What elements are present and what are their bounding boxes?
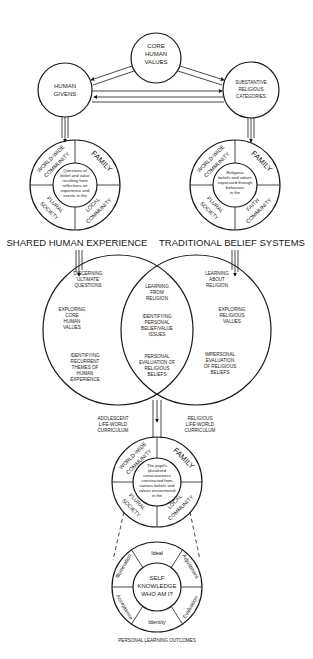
venn-text: HUMAN xyxy=(64,319,81,324)
segment-acceptance: Acceptance xyxy=(115,593,134,620)
venn-text: LEARNING xyxy=(205,271,229,276)
center-text: ... xyxy=(73,198,77,203)
venn-text: FROM xyxy=(150,290,164,295)
center-text: ... xyxy=(233,195,237,200)
venn-text: CORE xyxy=(65,313,78,318)
venn-text: EXPLORING xyxy=(59,307,86,312)
node-label: HUMAN xyxy=(145,51,167,57)
node-label: RELIGIOUS xyxy=(238,87,263,92)
shared-human-experience-label: SHARED HUMAN EXPERIENCE xyxy=(7,237,148,248)
venn-text: IDENTIFYING xyxy=(142,314,172,319)
personal-learning-outcomes-caption: PERSONAL LEARNING OUTCOMES xyxy=(118,638,195,643)
venn-text: DISCERNING xyxy=(74,271,103,276)
segment-label: FAMILY xyxy=(249,149,274,174)
venn-text: PERSONAL xyxy=(144,354,169,359)
node-label: CATEGORIES xyxy=(236,94,266,99)
upper-stems xyxy=(62,117,254,142)
node-label: CORE xyxy=(147,43,164,49)
human-givens-node: HUMAN GIVENS xyxy=(38,63,92,117)
traditional-belief-systems-label: TRADITIONAL BELIEF SYSTEMS xyxy=(159,237,305,248)
venn-text: ISSUES xyxy=(149,332,166,337)
right-community-ring: WORLD-WIDE COMMUNITY FAMILY PLURAL SOCIE… xyxy=(190,140,280,230)
venn-text: RELIGIOUS xyxy=(144,366,169,371)
venn-text: EXPLORING xyxy=(219,307,246,312)
venn-text: HUMAN xyxy=(77,371,94,376)
venn-text: IDENTIFYING xyxy=(70,353,100,358)
venn-text: PERSONAL xyxy=(144,320,169,325)
venn-text: VALUES xyxy=(63,325,81,330)
center-text: SELF xyxy=(149,575,164,581)
curriculum-label: ADOLESCENT xyxy=(97,416,128,421)
venn-text: RECURRENT xyxy=(71,359,100,364)
dashed-connector xyxy=(113,512,124,560)
venn-text: VALUES xyxy=(223,319,241,324)
node-label: VALUES xyxy=(144,59,167,65)
venn-text: LEARNING xyxy=(145,284,169,289)
religious-education-model-diagram: CORE HUMAN VALUES HUMAN GIVENS SUBSTANTI… xyxy=(0,0,313,659)
center-text: in the xyxy=(152,493,163,498)
venn-text: RELIGION xyxy=(206,283,228,288)
top-connectors xyxy=(91,66,224,102)
venn-text: EVALUATION OF xyxy=(139,360,175,365)
substantive-religious-categories-node: SUBSTANTIVE RELIGIOUS CATEGORIES xyxy=(223,62,279,118)
curriculum-label: CURRICULUM xyxy=(98,428,129,433)
curriculum-label: LIFE-WORLD xyxy=(99,422,128,427)
venn-text: ABOUT xyxy=(209,277,225,282)
segment-label: FAMILY xyxy=(89,149,114,174)
venn-text: RELIGIOUS xyxy=(219,313,244,318)
node-label: SUBSTANTIVE xyxy=(235,80,267,85)
venn-text: EVALUATION xyxy=(206,358,234,363)
venn-text: OF RELIGIOUS xyxy=(204,364,237,369)
self-knowledge-ring: Ideal Adjustment Evaluation Identity Acc… xyxy=(112,542,202,632)
pupil-consciousness-ring: WORLD-WIDE COMMUNITY FAMILY PLURAL SOCIE… xyxy=(112,437,202,527)
node-label: HUMAN xyxy=(54,83,76,89)
lower-stem xyxy=(153,400,161,438)
curriculum-label: RELIGIOUS xyxy=(187,416,212,421)
dashed-connector xyxy=(190,512,200,560)
segment-evaluation: Evaluation xyxy=(181,595,199,620)
venn-text: BELIEFS xyxy=(148,372,167,377)
venn-text: THEMES OF xyxy=(72,365,99,370)
center-text: WHO AM I? xyxy=(141,591,173,597)
center-text: KNOWLEDGE xyxy=(137,583,176,589)
core-human-values-node: CORE HUMAN VALUES xyxy=(131,33,181,83)
venn-text: EXPERIENCE xyxy=(70,377,100,382)
venn-text: IMPERSONAL xyxy=(205,352,236,357)
curriculum-label: LIFE-WORLD xyxy=(186,422,215,427)
segment-ideal: Ideal xyxy=(151,550,163,556)
venn-text: BELIEFS xyxy=(211,370,230,375)
venn-diagram: DISCERNING 'ULTIMATE' QUESTIONS EXPLORIN… xyxy=(43,255,271,405)
curriculum-label: CURRICULUM xyxy=(185,428,216,433)
segment-identity: Identity xyxy=(148,619,166,625)
venn-text: 'ULTIMATE' xyxy=(76,277,100,282)
venn-text: RELIGION xyxy=(146,296,168,301)
node-label: GIVENS xyxy=(54,91,77,97)
venn-text: QUESTIONS xyxy=(74,283,101,288)
venn-text: BELIEF/VALUE xyxy=(141,326,173,331)
left-community-ring: WORLD-WIDE COMMUNITY FAMILY PLURAL SOCIE… xyxy=(30,140,120,230)
